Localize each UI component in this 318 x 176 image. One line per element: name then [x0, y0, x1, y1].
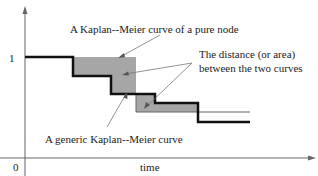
- annotation-generic: A generic Kaplan--Meier curve: [45, 133, 183, 145]
- annotation-distance-line1: The distance (or area): [199, 48, 295, 60]
- x-axis-arrow-icon: [308, 156, 316, 161]
- x-axis-label: time: [140, 161, 160, 173]
- pointer-pure-node: [120, 35, 160, 57]
- annotation-pure-node: A Kaplan--Meier curve of a pure node: [70, 23, 239, 35]
- pointer-generic: [107, 94, 126, 127]
- annotation-distance-line2: between the two curves: [199, 62, 303, 74]
- y-axis-arrow-icon: [23, 6, 28, 14]
- y-tick-one: 1: [9, 52, 15, 64]
- origin-label: 0: [13, 161, 19, 173]
